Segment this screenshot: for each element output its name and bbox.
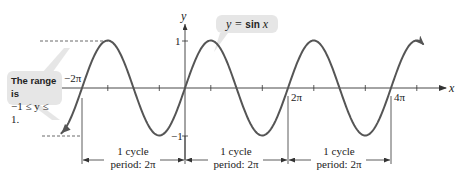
range-callout-line1: The range is xyxy=(11,74,58,100)
y-axis-label: y xyxy=(180,9,187,23)
period-labels: 1 cycle period: 2π 1 cycle period: 2π 1 … xyxy=(111,145,362,170)
x-axis-label: x xyxy=(448,81,455,95)
period-2-line1: 1 cycle xyxy=(220,145,252,157)
range-callout: The range is −1 ≤ y ≤ 1. xyxy=(7,71,62,105)
function-prefix: y = xyxy=(226,17,245,31)
x-tick-label-neg2pi: −2π xyxy=(64,72,82,84)
function-name: sin xyxy=(245,19,259,30)
function-variable: x xyxy=(263,17,268,31)
period-1-line2: period: 2π xyxy=(111,158,156,170)
period-2-line2: period: 2π xyxy=(214,158,259,170)
curve-start-arrow-icon xyxy=(61,124,70,133)
period-3-line2: period: 2π xyxy=(317,158,362,170)
y-tick-label-neg1: −1 xyxy=(171,130,183,142)
y-tick-label-1: 1 xyxy=(175,35,181,47)
range-callout-line2: −1 ≤ y ≤ 1. xyxy=(11,100,58,126)
x-tick-label-2pi: 2π xyxy=(291,91,303,103)
sine-graph-diagram: x −2π 2π 4π y 1 −1 xyxy=(0,0,460,176)
period-1-line1: 1 cycle xyxy=(117,145,149,157)
x-tick-label-4pi: 4π xyxy=(394,91,406,103)
function-callout: y = sin x xyxy=(216,15,278,33)
period-3-line1: 1 cycle xyxy=(323,145,355,157)
